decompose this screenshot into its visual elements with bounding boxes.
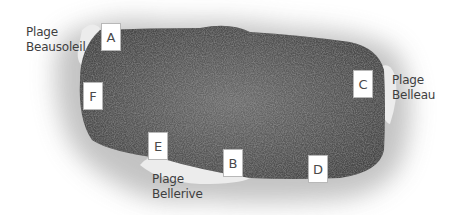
marker-a: A — [101, 23, 121, 51]
marker-c: C — [353, 70, 373, 98]
beach-label-beausoleil: Plage Beausoleil — [26, 25, 86, 55]
beach-label-line2: Belleau — [392, 88, 435, 103]
marker-d: D — [308, 155, 328, 183]
beach-label-line1: Plage — [26, 25, 86, 40]
beach-label-line1: Plage — [392, 73, 435, 88]
island-map: Plage Beausoleil Plage Belleau Plage Bel… — [0, 0, 455, 215]
beach-label-line2: Beausoleil — [26, 40, 86, 55]
beach-label-line2: Bellerive — [152, 187, 203, 202]
marker-f: F — [83, 82, 103, 110]
beach-label-bellerive: Plage Bellerive — [152, 172, 203, 202]
marker-e: E — [148, 132, 168, 160]
beach-label-line1: Plage — [152, 172, 203, 187]
beach-label-belleau: Plage Belleau — [392, 73, 435, 103]
marker-b: B — [223, 149, 243, 177]
